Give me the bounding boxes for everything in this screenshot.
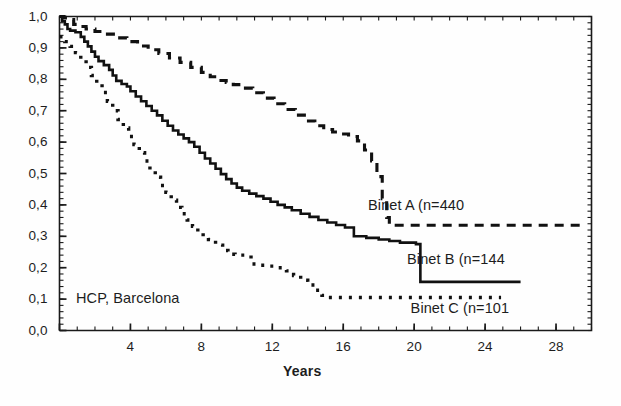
series-label-b: Binet B (n=144: [407, 251, 505, 267]
plot-frame: [60, 17, 592, 331]
series-line-b: [60, 17, 521, 282]
y-tick-label: 0,4: [14, 197, 48, 212]
y-tick-label: 0,8: [14, 71, 48, 86]
x-tick-label: 8: [183, 339, 219, 354]
x-tick-label: 16: [325, 339, 361, 354]
y-tick-label: 0,3: [14, 228, 48, 243]
y-tick-label: 0,5: [14, 166, 48, 181]
y-tick-label: 1,0: [14, 9, 48, 24]
chart-canvas: [0, 0, 621, 406]
x-tick-label: 24: [467, 339, 503, 354]
y-tick-label: 0,1: [14, 291, 48, 306]
series-label-a: Binet A (n=440: [368, 197, 464, 213]
x-tick-label: 12: [254, 339, 290, 354]
x-tick-label: 28: [538, 339, 574, 354]
axis-ticks: [60, 17, 592, 331]
series-label-c: Binet C (n=101: [411, 300, 510, 316]
y-tick-label: 0,9: [14, 40, 48, 55]
series-line-a: [60, 17, 583, 226]
survival-chart-figure: 0,00,10,20,30,40,50,60,70,80,91,0 481216…: [0, 0, 621, 406]
y-tick-label: 0,2: [14, 260, 48, 275]
y-tick-label: 0,6: [14, 134, 48, 149]
x-tick-label: 20: [396, 339, 432, 354]
source-annotation: HCP, Barcelona: [76, 290, 180, 306]
x-axis-title: Years: [283, 363, 321, 379]
y-tick-label: 0,7: [14, 103, 48, 118]
y-tick-label: 0,0: [14, 323, 48, 338]
x-tick-label: 4: [112, 339, 148, 354]
